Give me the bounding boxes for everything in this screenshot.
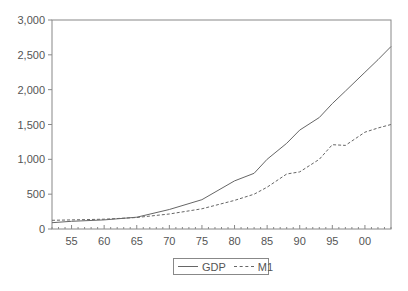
plot-frame: [52, 20, 391, 229]
y-tick-label: 0: [39, 223, 45, 235]
x-tick-label: 85: [261, 235, 273, 247]
x-tick-label: 70: [163, 235, 175, 247]
dashed-line-icon: [234, 266, 254, 267]
solid-line-icon: [178, 266, 198, 267]
legend-item-gdp: GDP: [178, 261, 226, 273]
x-tick-label: 90: [294, 235, 306, 247]
y-tick-label: 1,000: [17, 153, 45, 165]
x-tick-label: 60: [98, 235, 110, 247]
x-tick-label: 75: [196, 235, 208, 247]
x-tick-label: 95: [326, 235, 338, 247]
x-tick-label: 55: [65, 235, 77, 247]
line-chart: 05001,0001,5002,0002,5003,000 5560657075…: [0, 0, 408, 250]
series-m1-line: [52, 125, 391, 221]
series-lines: [52, 47, 391, 223]
y-tick-label: 1,500: [17, 119, 45, 131]
x-tick-label: 65: [131, 235, 143, 247]
x-tick-label: 00: [359, 235, 371, 247]
legend-label-m1: M1: [258, 261, 273, 273]
x-axis: 55606570758085909500: [52, 225, 391, 247]
y-axis: 05001,0001,5002,0002,5003,000: [17, 14, 52, 235]
x-tick-label: 80: [228, 235, 240, 247]
legend: GDP M1: [173, 258, 269, 275]
y-tick-label: 3,000: [17, 14, 45, 26]
y-tick-label: 2,500: [17, 49, 45, 61]
legend-label-gdp: GDP: [202, 261, 226, 273]
series-gdp-line: [52, 47, 391, 223]
y-tick-label: 2,000: [17, 84, 45, 96]
y-tick-label: 500: [27, 188, 45, 200]
legend-item-m1: M1: [234, 261, 273, 273]
